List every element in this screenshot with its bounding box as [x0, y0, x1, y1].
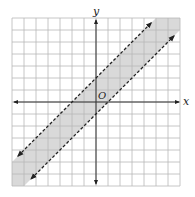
coordinate-plane: x y O	[0, 0, 195, 197]
y-axis-label: y	[92, 5, 100, 18]
lower-boundary-line	[31, 36, 174, 179]
origin-label: O	[98, 90, 106, 101]
x-axis-label: x	[183, 95, 190, 108]
